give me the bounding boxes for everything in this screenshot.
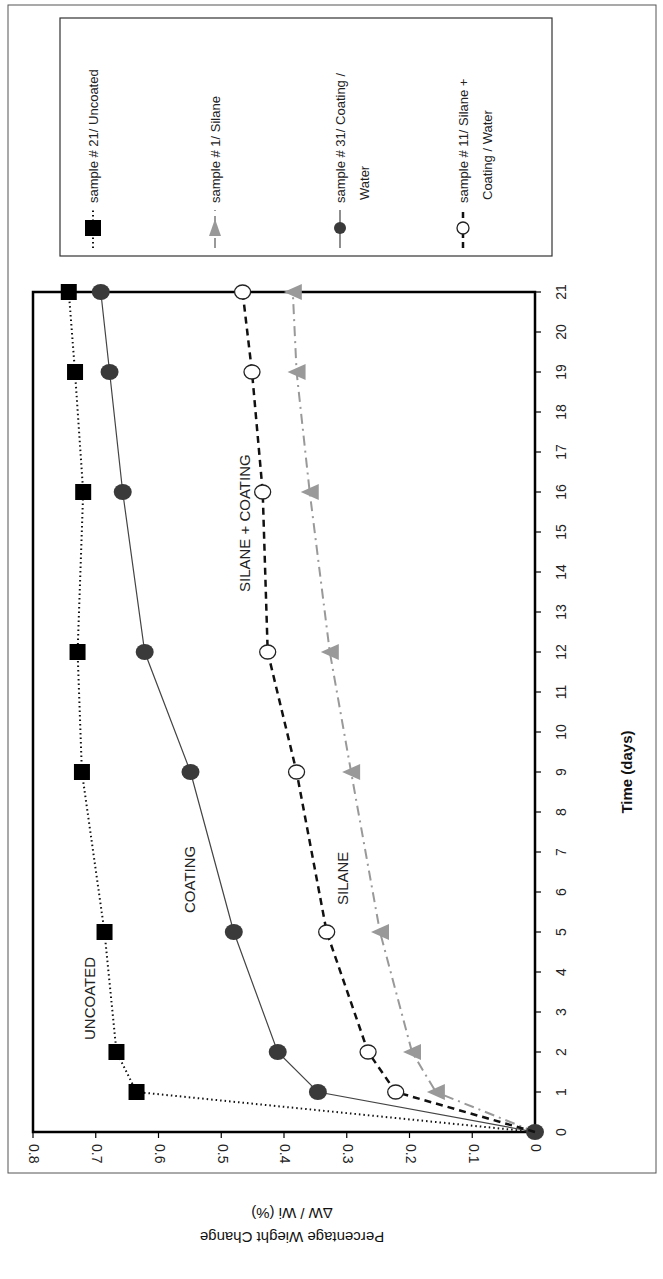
y-tick-label: 0.1 <box>466 1144 482 1164</box>
legend-item-0: sample # 21/ Uncoated <box>85 69 101 248</box>
y-tick-label: 0.3 <box>340 1144 356 1164</box>
series-line <box>243 292 535 1132</box>
data-point <box>101 364 119 380</box>
data-point <box>129 1084 145 1100</box>
data-point <box>427 1084 445 1100</box>
data-point <box>74 764 90 780</box>
legend-label: sample # 21/ Uncoated <box>86 69 101 203</box>
data-point <box>360 1045 376 1059</box>
legend-item-1: sample # 1/ Silane <box>208 96 223 248</box>
y-axis-title: Percentage Wieght Change <box>200 1229 384 1246</box>
series-1 <box>284 284 535 1132</box>
data-point <box>182 764 200 780</box>
data-point <box>136 644 154 660</box>
data-point <box>108 1044 124 1060</box>
x-tick-label: 16 <box>553 484 569 500</box>
data-point <box>403 1044 421 1060</box>
x-tick-label: 6 <box>553 888 569 896</box>
axis-ticks: 012345678910111213141516171819202100.10.… <box>26 284 569 1164</box>
series-3 <box>235 285 535 1132</box>
data-point <box>235 285 251 299</box>
series-0 <box>61 284 535 1132</box>
page-border <box>8 5 656 1173</box>
x-tick-label: 9 <box>553 768 569 776</box>
annotation-silane-coating: SILANE + COATING <box>236 454 253 592</box>
series-group <box>61 284 544 1140</box>
data-point <box>70 644 86 660</box>
legend-item-3: sample # 11/ Silane +Coating / Water <box>456 79 495 248</box>
triangle-marker-icon <box>209 219 221 236</box>
series-line <box>101 292 535 1132</box>
legend: sample # 21/ Uncoatedsample # 1/ Silanes… <box>85 69 495 248</box>
x-tick-label: 17 <box>553 444 569 460</box>
legend-item-2: sample # 31/ Coating /Water <box>333 73 372 248</box>
data-point <box>269 1044 287 1060</box>
x-tick-label: 14 <box>553 564 569 580</box>
legend-label-cont: Water <box>357 165 372 200</box>
data-point <box>61 284 77 300</box>
legend-label: sample # 1/ Silane <box>208 96 223 203</box>
data-point <box>319 925 335 939</box>
annotation-silane: SILANE <box>334 852 351 905</box>
x-tick-label: 8 <box>553 808 569 816</box>
x-axis-title: Time (days) <box>618 730 635 813</box>
x-tick-label: 18 <box>553 404 569 420</box>
x-tick-label: 19 <box>553 364 569 380</box>
legend-label: sample # 11/ Silane + <box>456 79 471 203</box>
square-marker-icon <box>85 220 101 236</box>
chart-svg: 012345678910111213141516171819202100.10.… <box>0 0 663 1279</box>
data-point <box>289 765 305 779</box>
annotation-uncoated: UNCOATED <box>81 957 98 1040</box>
data-point <box>260 645 276 659</box>
x-tick-label: 12 <box>553 644 569 660</box>
chart-figure: 012345678910111213141516171819202100.10.… <box>0 0 663 1279</box>
open-circle-marker-icon <box>457 222 469 234</box>
data-point <box>388 1085 404 1099</box>
series-line <box>293 292 535 1132</box>
x-tick-label: 0 <box>553 1128 569 1136</box>
y-tick-label: 0.6 <box>152 1144 168 1164</box>
x-tick-label: 1 <box>553 1088 569 1096</box>
y-tick-label: 0.4 <box>277 1144 293 1164</box>
legend-label-cont: Coating / Water <box>480 109 495 200</box>
x-tick-label: 5 <box>553 928 569 936</box>
y-tick-label: 0.7 <box>89 1144 105 1164</box>
y-tick-label: 0.2 <box>403 1144 419 1164</box>
annotation-coating: COATING <box>181 846 198 913</box>
y-axis-subtitle: ΔW / Wi (%) <box>251 1205 333 1222</box>
data-point <box>114 484 132 500</box>
data-point <box>309 1084 327 1100</box>
x-tick-label: 21 <box>553 284 569 300</box>
x-tick-label: 13 <box>553 604 569 620</box>
x-tick-label: 11 <box>553 685 569 700</box>
circle-marker-icon <box>334 222 346 234</box>
data-point <box>75 484 91 500</box>
x-tick-label: 20 <box>553 324 569 340</box>
data-point <box>255 485 271 499</box>
data-point <box>67 364 83 380</box>
data-point <box>97 924 113 940</box>
x-tick-label: 2 <box>553 1048 569 1056</box>
data-point <box>244 365 260 379</box>
x-tick-label: 7 <box>553 848 569 856</box>
data-point <box>371 924 389 940</box>
y-tick-label: 0 <box>528 1144 544 1152</box>
x-tick-label: 3 <box>553 1008 569 1016</box>
legend-box <box>60 18 552 256</box>
data-point <box>225 924 243 940</box>
x-tick-label: 4 <box>553 968 569 976</box>
x-tick-label: 10 <box>553 724 569 740</box>
y-tick-label: 0.5 <box>215 1144 231 1164</box>
y-tick-label: 0.8 <box>26 1144 42 1164</box>
data-point <box>92 284 110 300</box>
x-tick-label: 15 <box>553 524 569 540</box>
plot-area <box>33 292 535 1132</box>
legend-label: sample # 31/ Coating / <box>333 73 348 203</box>
series-2 <box>92 284 544 1140</box>
